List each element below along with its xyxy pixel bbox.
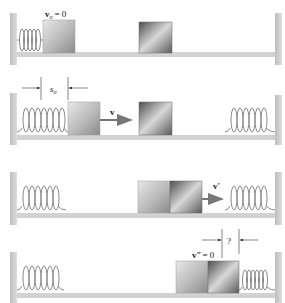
floor: [17, 213, 275, 218]
block-b: [139, 22, 172, 53]
collision-diagram: vo= 0 so v: [0, 0, 285, 303]
panel-4: ? v″= 0: [10, 229, 282, 303]
panel-3: v′: [10, 172, 282, 225]
block-b: [170, 181, 202, 213]
velocity-label: v: [110, 107, 115, 117]
unknown-label: ?: [227, 236, 231, 246]
left-wall: [10, 252, 17, 303]
block-b: [139, 102, 172, 135]
left-wall: [10, 13, 17, 65]
left-spring: [17, 108, 68, 132]
block-b: [208, 261, 239, 293]
left-spring: [17, 186, 66, 210]
left-spring: [17, 266, 64, 290]
right-spring-compressed: [239, 270, 275, 290]
right-wall: [275, 95, 282, 145]
velocity-label: vo= 0: [45, 9, 67, 20]
right-spring: [225, 186, 275, 210]
block-a: [43, 20, 75, 53]
compressed-spring: [17, 29, 43, 51]
velocity-label: v′: [213, 181, 220, 191]
right-wall: [275, 252, 282, 303]
block-a: [68, 102, 100, 135]
block-a: [176, 261, 208, 293]
compression-label: so: [50, 84, 57, 95]
panel-1: vo= 0: [10, 9, 282, 65]
floor: [17, 293, 275, 298]
floor: [17, 135, 275, 140]
right-wall: [275, 172, 282, 225]
right-wall: [275, 13, 282, 65]
right-spring: [225, 108, 275, 132]
block-a: [138, 181, 170, 213]
compression-dimension: so: [22, 77, 88, 100]
velocity-label: v″= 0: [192, 250, 215, 260]
left-wall: [10, 172, 17, 225]
left-wall: [10, 93, 17, 145]
panel-2: so v: [10, 77, 282, 145]
